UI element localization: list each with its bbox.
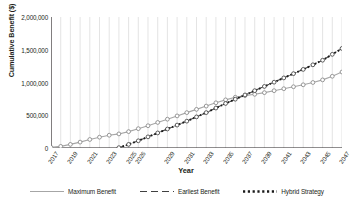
data-point-marker bbox=[59, 144, 63, 148]
data-point-marker bbox=[166, 127, 170, 131]
data-point-marker bbox=[330, 74, 334, 78]
data-point-marker bbox=[321, 58, 325, 62]
data-point-marker bbox=[117, 132, 121, 136]
data-point-marker bbox=[195, 107, 199, 111]
x-axis-title: Year bbox=[0, 166, 354, 175]
x-tick-label: 2035 bbox=[221, 150, 234, 165]
plot-svg bbox=[51, 17, 342, 148]
legend-swatch-dashed bbox=[140, 188, 174, 195]
x-tick-label: 2017 bbox=[46, 150, 59, 165]
data-point-marker bbox=[340, 47, 342, 51]
data-point-marker bbox=[175, 123, 179, 127]
legend-label: Maximum Benefit bbox=[68, 188, 116, 195]
x-tick-label: 2047 bbox=[337, 150, 350, 165]
data-point-marker bbox=[146, 135, 150, 139]
data-point-marker bbox=[272, 80, 276, 84]
y-tick-label: 500,000 bbox=[26, 112, 48, 119]
data-point-marker bbox=[243, 93, 247, 97]
data-point-marker bbox=[340, 70, 342, 74]
data-point-marker bbox=[253, 89, 257, 93]
x-tick-label: 2019 bbox=[66, 150, 79, 165]
data-point-marker bbox=[263, 91, 267, 95]
legend-label: Hybrid Strategy bbox=[281, 188, 324, 195]
data-point-marker bbox=[146, 124, 150, 128]
chart-legend: Maximum BenefitEarliest BenefitHybrid St… bbox=[0, 183, 354, 199]
data-point-marker bbox=[282, 87, 286, 91]
x-tick-label: 2041 bbox=[279, 150, 292, 165]
data-point-marker bbox=[88, 138, 92, 142]
data-point-marker bbox=[233, 97, 237, 101]
legend-item[interactable]: Hybrid Strategy bbox=[243, 188, 324, 195]
data-point-marker bbox=[321, 78, 325, 82]
data-point-marker bbox=[263, 85, 267, 89]
data-point-marker bbox=[311, 81, 315, 85]
x-tick-label: 2033 bbox=[202, 150, 215, 165]
data-point-marker bbox=[98, 135, 102, 139]
data-point-marker bbox=[204, 111, 208, 115]
data-point-marker bbox=[127, 142, 131, 146]
data-point-marker bbox=[166, 117, 170, 121]
y-tick-label: 1,000,000 bbox=[21, 79, 48, 86]
data-point-marker bbox=[224, 102, 228, 106]
legend-swatch-solid bbox=[30, 188, 64, 195]
data-point-marker bbox=[185, 111, 189, 115]
data-point-marker bbox=[175, 114, 179, 118]
cumulative-benefit-chart: Cumulative Benefit ($) 0500,0001,000,000… bbox=[0, 0, 354, 202]
data-point-marker bbox=[195, 115, 199, 119]
data-point-marker bbox=[301, 83, 305, 87]
y-tick-label: 2,000,000 bbox=[21, 14, 48, 21]
data-point-marker bbox=[301, 68, 305, 72]
data-point-marker bbox=[204, 104, 208, 108]
data-point-marker bbox=[136, 139, 140, 143]
data-point-marker bbox=[156, 131, 160, 135]
x-tick-label: 2037 bbox=[240, 150, 253, 165]
data-point-marker bbox=[51, 145, 53, 148]
plot-area bbox=[51, 17, 342, 148]
data-point-marker bbox=[127, 130, 131, 134]
x-tick-label: 2031 bbox=[182, 150, 195, 165]
data-point-marker bbox=[69, 142, 73, 146]
data-point-marker bbox=[78, 140, 82, 144]
data-point-marker bbox=[107, 133, 111, 137]
data-point-marker bbox=[117, 146, 121, 148]
x-tick-label: 2021 bbox=[85, 150, 98, 165]
x-tick-label: 2029 bbox=[163, 150, 176, 165]
y-axis-tick-labels: 0500,0001,000,0001,500,0002,000,000 bbox=[0, 0, 48, 165]
x-tick-label: 2023 bbox=[105, 150, 118, 165]
x-tick-label: 2039 bbox=[260, 150, 273, 165]
data-point-marker bbox=[292, 85, 296, 89]
data-point-marker bbox=[272, 89, 276, 93]
data-point-marker bbox=[330, 52, 334, 56]
legend-item[interactable]: Maximum Benefit bbox=[30, 188, 116, 195]
data-point-marker bbox=[156, 121, 160, 125]
legend-swatch-dotted bbox=[243, 188, 277, 195]
data-point-marker bbox=[282, 76, 286, 80]
x-tick-label: 2043 bbox=[299, 150, 312, 165]
legend-item[interactable]: Earliest Benefit bbox=[140, 188, 219, 195]
data-point-marker bbox=[185, 119, 189, 123]
legend-label: Earliest Benefit bbox=[178, 188, 219, 195]
data-point-marker bbox=[292, 72, 296, 76]
data-point-marker bbox=[214, 106, 218, 110]
y-tick-label: 1,500,000 bbox=[21, 46, 48, 53]
y-tick-label: 0 bbox=[45, 145, 48, 152]
data-point-marker bbox=[214, 101, 218, 105]
x-tick-label: 2045 bbox=[318, 150, 331, 165]
data-point-marker bbox=[136, 127, 140, 131]
data-point-marker bbox=[311, 63, 315, 67]
